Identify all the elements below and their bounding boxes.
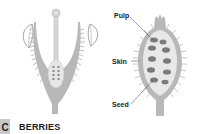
caption-title: BERRIES: [19, 122, 60, 132]
berry-cross-section: [130, 14, 187, 116]
caption-badge: C: [0, 119, 10, 134]
label-seed: Seed: [112, 101, 129, 108]
figure-caption: C BERRIES: [0, 119, 60, 134]
label-skin: Skin: [112, 58, 127, 65]
flower-diagram: [0, 0, 218, 134]
label-pulp: Pulp: [114, 12, 129, 19]
flower-illustration: [23, 9, 97, 114]
